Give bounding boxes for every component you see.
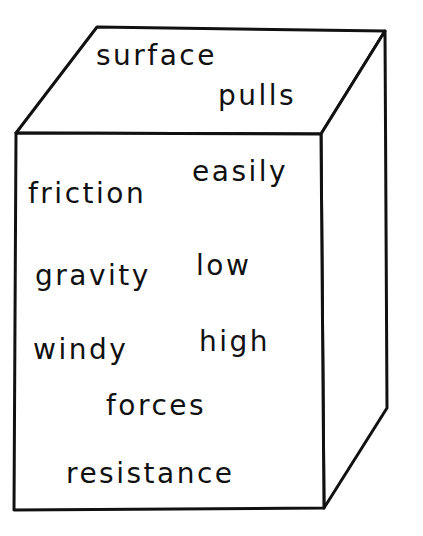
word-high: high [199,328,270,356]
word-friction: friction [28,180,146,208]
word-gravity: gravity [35,262,151,290]
word-pulls: pulls [218,82,296,110]
word-easily: easily [192,158,288,186]
word-forces: forces [106,392,206,420]
word-resistance: resistance [66,460,235,488]
word-surface: surface [96,42,217,70]
word-low: low [196,252,251,280]
word-windy: windy [33,336,128,364]
